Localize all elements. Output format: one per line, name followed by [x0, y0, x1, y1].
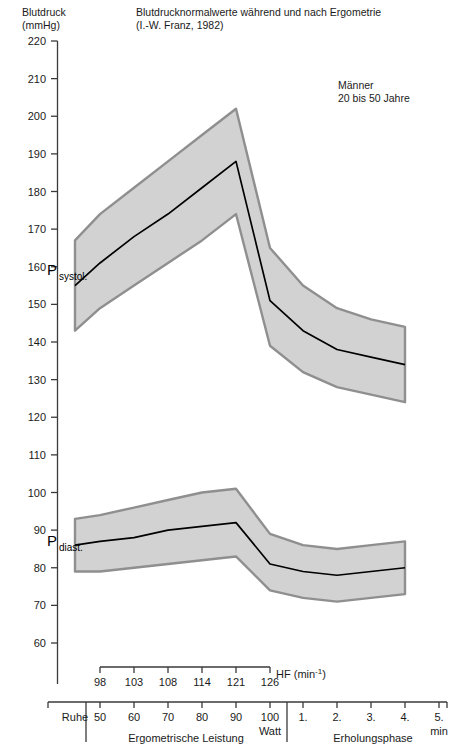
x-tick-label: 80	[196, 711, 208, 723]
minute-unit-label: min	[430, 725, 448, 737]
diastolic-label-main: P	[47, 532, 57, 549]
x-tick-label: 5.	[434, 711, 443, 723]
hf-bracket: 98103108114121126	[94, 667, 279, 688]
systolic-label-sub: systol.	[59, 271, 87, 282]
hf-caption-close: )	[322, 668, 326, 680]
normal-range-band	[75, 109, 405, 402]
x-tick-label: 100	[261, 711, 279, 723]
y-tick-label: 130	[28, 374, 46, 386]
hf-value-label: 114	[193, 676, 211, 688]
x-tick-label: Ruhe	[62, 711, 88, 723]
hf-value-label: 108	[159, 676, 177, 688]
normal-range-band	[75, 489, 405, 602]
y-tick-label: 160	[28, 261, 46, 273]
load-phase-label: Ergometrische Leistung	[128, 732, 244, 744]
x-tick-label: 50	[94, 711, 106, 723]
chart-bands	[75, 109, 405, 602]
y-tick-label: 150	[28, 298, 46, 310]
x-tick-label: 60	[128, 711, 140, 723]
y-tick-label: 90	[34, 524, 46, 536]
hf-value-label: 103	[125, 676, 143, 688]
y-tick-label: 110	[28, 449, 46, 461]
hf-value-label: 98	[94, 676, 106, 688]
y-tick-label: 210	[28, 73, 46, 85]
x-tick-label: 4.	[400, 711, 409, 723]
blood-pressure-chart: 6070809010011012013014015016017018019020…	[0, 0, 453, 752]
y-tick-label: 220	[28, 35, 46, 47]
x-tick-label: 90	[230, 711, 242, 723]
y-tick-label: 80	[34, 562, 46, 574]
y-tick-label: 140	[28, 336, 46, 348]
hf-caption-text: HF (min	[276, 668, 315, 680]
x-axis: Ruhe50607080901001.2.3.4.5.WattminErgome…	[48, 702, 448, 744]
y-tick-label: 190	[28, 148, 46, 160]
x-tick-label: 2.	[332, 711, 341, 723]
y-tick-label: 70	[34, 599, 46, 611]
y-tick-label: 170	[28, 223, 46, 235]
hf-caption: HF (min-1)	[276, 667, 326, 680]
watt-unit-label: Watt	[259, 725, 281, 737]
diastolic-label-sub: diast.	[59, 542, 83, 553]
y-tick-label: 200	[28, 110, 46, 122]
systolic-label-main: P	[47, 261, 57, 278]
y-tick-label: 100	[28, 487, 46, 499]
hf-value-label: 121	[227, 676, 245, 688]
recovery-phase-label: Erholungsphase	[333, 732, 413, 744]
x-tick-label: 3.	[366, 711, 375, 723]
y-tick-label: 180	[28, 186, 46, 198]
y-tick-label: 60	[34, 637, 46, 649]
y-axis-ticks: 6070809010011012013014015016017018019020…	[28, 35, 58, 649]
x-tick-label: 1.	[298, 711, 307, 723]
y-tick-label: 120	[28, 411, 46, 423]
x-tick-label: 70	[162, 711, 174, 723]
